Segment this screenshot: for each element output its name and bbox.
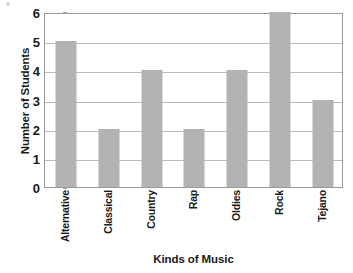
y-axis-tick-label: 4	[22, 65, 40, 78]
y-axis-tick-label: 2	[22, 123, 40, 136]
x-tick-slot: Classical	[87, 190, 130, 250]
x-tick-slot: Alternative	[44, 190, 87, 250]
x-axis-tick-label: Oldies	[231, 190, 242, 221]
bar-slot	[216, 14, 259, 187]
bar[interactable]	[99, 129, 120, 187]
y-axis-tick-label: 5	[22, 36, 40, 49]
x-axis-tick-label: Rock	[274, 190, 285, 215]
bar[interactable]	[56, 41, 77, 187]
x-axis-title: Kinds of Music	[44, 253, 343, 265]
x-axis-tick-label: Alternative	[60, 190, 71, 242]
bar[interactable]	[227, 70, 248, 187]
plot-area	[44, 13, 343, 188]
scan-artifact-dot	[6, 2, 10, 6]
bar-slot	[88, 14, 131, 187]
bar-slot	[130, 14, 173, 187]
x-tick-slot: Rock	[258, 190, 301, 250]
x-tick-slot: Tejano	[300, 190, 343, 250]
bar-chart-figure: Number of Students 0123456 AlternativeCl…	[0, 0, 353, 273]
x-axis-tick-label: Rap	[188, 190, 199, 209]
x-axis-tick-label: Country	[146, 190, 157, 229]
x-tick-slot: Country	[129, 190, 172, 250]
y-axis-tick-label: 1	[22, 152, 40, 165]
bar[interactable]	[312, 100, 333, 188]
x-axis-tick-label: Classical	[103, 190, 114, 234]
bar[interactable]	[141, 70, 162, 187]
x-tick-slot: Oldies	[215, 190, 258, 250]
y-axis-tick-label: 0	[22, 182, 40, 195]
y-axis-tick-label: 6	[22, 7, 40, 20]
bar[interactable]	[184, 129, 205, 187]
y-axis-tick-labels: 0123456	[22, 13, 40, 188]
bars-layer	[45, 14, 342, 187]
bar-slot	[45, 14, 88, 187]
y-axis-tick-label: 3	[22, 94, 40, 107]
x-tick-slot: Rap	[172, 190, 215, 250]
x-axis-tick-labels: AlternativeClassicalCountryRapOldiesRock…	[44, 190, 343, 250]
bar-slot	[259, 14, 302, 187]
bar[interactable]	[269, 12, 290, 187]
x-axis-tick-label: Tejano	[316, 190, 327, 222]
bar-slot	[301, 14, 344, 187]
bar-slot	[173, 14, 216, 187]
